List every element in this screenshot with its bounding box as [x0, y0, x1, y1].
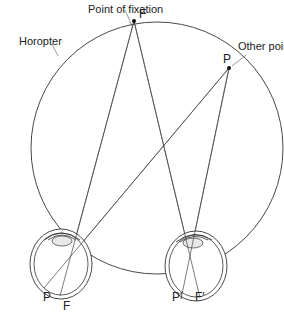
other-callout-label: Other point [238, 40, 284, 52]
right-eye [134, 21, 229, 301]
horopter-label: Horopter [19, 35, 62, 47]
right-retina-f-label: F′ [195, 290, 205, 304]
fixation-callout-label: Point of fixation [88, 3, 163, 15]
other-leader [232, 55, 246, 66]
right-retina-p-label: P′ [172, 290, 183, 304]
fixation-point-label: F [139, 7, 146, 21]
other-point-label: P [223, 52, 231, 66]
fixation-point [132, 19, 136, 23]
other-point [227, 66, 231, 70]
left-retina-p-label: P [43, 290, 51, 304]
left-retina-f-label: F [63, 299, 70, 313]
horopter-diagram: Point of fixation F Other point P Horopt… [0, 0, 284, 320]
